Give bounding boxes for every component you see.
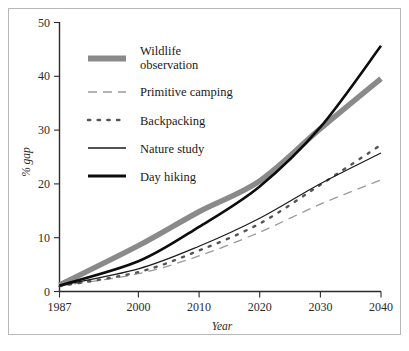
x-axis-title: Year — [212, 320, 233, 332]
line-chart: 50 40 30 20 10 0 1987 2000 2010 2020 203… — [0, 0, 409, 351]
legend-item-wildlife-observation[interactable]: Wildlife observation — [88, 44, 199, 72]
x-tick-label: 2010 — [187, 300, 211, 314]
y-tick-marks — [54, 23, 60, 292]
legend: Wildlife observation Primitive camping B… — [88, 44, 233, 184]
legend-label-wildlife-observation-line2: observation — [140, 58, 199, 72]
x-tick-label: 2000 — [126, 300, 150, 314]
legend-label-day-hiking: Day hiking — [140, 170, 197, 184]
y-tick-label: 10 — [38, 231, 50, 245]
x-tick-marks — [60, 292, 382, 298]
series-line-nature-study — [60, 153, 382, 286]
x-tick-labels: 1987 2000 2010 2020 2030 2040 — [48, 300, 394, 314]
y-tick-label: 20 — [38, 177, 50, 191]
x-tick-label: 2040 — [369, 300, 393, 314]
figure-container: 50 40 30 20 10 0 1987 2000 2010 2020 203… — [0, 0, 409, 351]
legend-item-primitive-camping[interactable]: Primitive camping — [88, 85, 233, 99]
legend-label-nature-study: Nature study — [140, 142, 205, 156]
series-line-day-hiking — [60, 46, 382, 286]
series-line-backpacking — [60, 145, 382, 286]
y-tick-label: 30 — [38, 123, 50, 137]
x-tick-label: 2030 — [308, 300, 332, 314]
x-tick-label: 1987 — [48, 300, 72, 314]
y-tick-label: 40 — [38, 69, 50, 83]
series-line-primitive-camping — [60, 180, 382, 286]
x-tick-label: 2020 — [248, 300, 272, 314]
y-tick-label: 0 — [44, 285, 50, 299]
y-tick-label: 50 — [38, 16, 50, 30]
data-series-layer — [60, 46, 382, 286]
y-axis-title: % gap — [20, 147, 33, 177]
legend-label-backpacking: Backpacking — [140, 114, 206, 128]
legend-item-backpacking[interactable]: Backpacking — [88, 114, 206, 128]
legend-item-nature-study[interactable]: Nature study — [88, 142, 205, 156]
legend-label-primitive-camping: Primitive camping — [140, 85, 233, 99]
legend-item-day-hiking[interactable]: Day hiking — [88, 170, 197, 184]
axis-group — [54, 22, 381, 298]
y-tick-labels: 50 40 30 20 10 0 — [38, 16, 50, 299]
legend-label-wildlife-observation-line1: Wildlife — [140, 44, 182, 58]
